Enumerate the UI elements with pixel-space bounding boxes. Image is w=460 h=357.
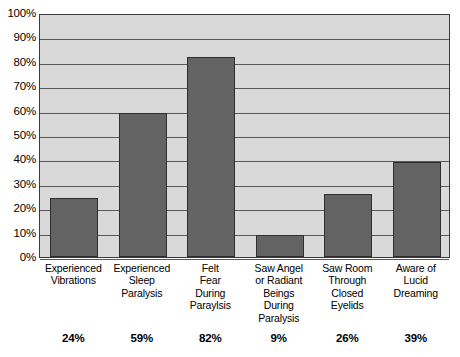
bars-layer (40, 15, 449, 257)
data-value-label: 26% (313, 332, 382, 345)
category-label-line: During (245, 299, 314, 311)
bar (119, 113, 167, 257)
data-value-label: 59% (108, 332, 177, 345)
bar (50, 198, 98, 257)
category-label-line: Paraylsis (176, 299, 245, 311)
y-axis-tick-label: 10% (0, 228, 36, 240)
category-label-line: Saw Angel (245, 262, 314, 274)
bar-chart: 0%10%20%30%40%50%60%70%80%90%100% Experi… (0, 0, 460, 357)
x-axis-category-label: FeltFearDuringParaylsis (176, 262, 245, 312)
y-axis-tick-label: 30% (0, 179, 36, 191)
gridline (40, 259, 449, 260)
y-axis: 0%10%20%30%40%50%60%70%80%90%100% (0, 14, 36, 258)
x-axis-category-label: ExperiencedSleepParalysis (108, 262, 177, 299)
category-label-line: Fear (176, 274, 245, 286)
y-axis-tick-label: 60% (0, 106, 36, 118)
category-label-line: Aware of (382, 262, 451, 274)
category-label-line: Through (313, 274, 382, 286)
bar (393, 162, 441, 257)
category-label-line: Dreaming (382, 287, 451, 299)
data-value-label: 9% (245, 332, 314, 345)
category-label-line: or Radiant (245, 274, 314, 286)
category-label-line: Paralysis (245, 312, 314, 324)
data-value-row: 24%59%82%9%26%39% (39, 332, 450, 350)
y-axis-tick-label: 20% (0, 203, 36, 215)
bar (187, 57, 235, 257)
x-axis-category-label: Saw Angelor RadiantBeingsDuringParalysis (245, 262, 314, 324)
category-label-line: Experienced (39, 262, 108, 274)
x-axis-category-label: ExperiencedVibrations (39, 262, 108, 287)
x-axis-category-labels: ExperiencedVibrationsExperiencedSleepPar… (39, 262, 450, 324)
category-label-line: Paralysis (108, 287, 177, 299)
y-axis-tick-label: 70% (0, 81, 36, 93)
category-label-line: During (176, 287, 245, 299)
category-label-line: Experienced (108, 262, 177, 274)
category-label-line: Saw Room (313, 262, 382, 274)
y-axis-tick-label: 90% (0, 33, 36, 45)
category-label-line: Vibrations (39, 274, 108, 286)
category-label-line: Closed (313, 287, 382, 299)
category-label-line: Beings (245, 287, 314, 299)
bar (256, 235, 304, 257)
bar (324, 194, 372, 257)
y-axis-tick-label: 100% (0, 8, 36, 20)
y-axis-tick-label: 50% (0, 130, 36, 142)
y-axis-tick-label: 0% (0, 252, 36, 264)
y-axis-tick-label: 80% (0, 57, 36, 69)
category-label-line: Lucid (382, 274, 451, 286)
category-label-line: Sleep (108, 274, 177, 286)
plot-area (39, 14, 450, 258)
category-label-line: Eyelids (313, 299, 382, 311)
category-label-line: Felt (176, 262, 245, 274)
data-value-label: 39% (382, 332, 451, 345)
data-value-label: 24% (39, 332, 108, 345)
y-axis-tick-label: 40% (0, 155, 36, 167)
x-axis-category-label: Saw RoomThroughClosedEyelids (313, 262, 382, 312)
data-value-label: 82% (176, 332, 245, 345)
x-axis-category-label: Aware ofLucidDreaming (382, 262, 451, 299)
